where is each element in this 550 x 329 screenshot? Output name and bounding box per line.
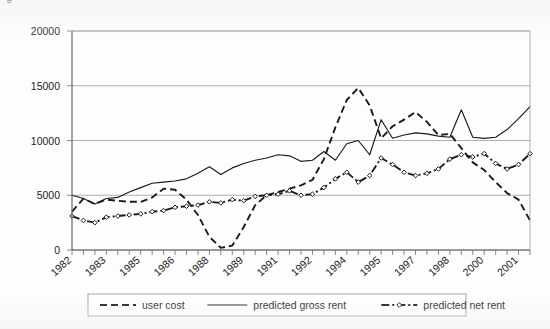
y-axis-tick-labels: 05000100001500020000 [31, 25, 72, 256]
x-axis-tick-label: 2000 [460, 253, 486, 278]
y-axis-tick-label: 15000 [31, 80, 60, 92]
data-point-marker [184, 204, 189, 209]
data-point-marker [230, 197, 235, 202]
x-axis-tick-label: 1998 [426, 253, 452, 278]
gridlines-group [72, 31, 530, 250]
data-point-marker [276, 192, 281, 197]
data-point-marker [138, 212, 143, 217]
y-axis-tick-label: 10000 [31, 135, 60, 147]
data-point-marker [93, 220, 98, 225]
data-point-marker [219, 201, 224, 206]
data-point-marker [127, 213, 132, 218]
line-chart: 05000100001500020000 1982198319851986198… [0, 0, 550, 329]
y-axis-tick-label: 0 [54, 244, 60, 256]
legend-label: predicted net rent [423, 299, 505, 311]
y-axis-tick-label: 20000 [31, 25, 60, 37]
x-axis-tick-label: 1994 [323, 253, 349, 278]
series-group [70, 88, 533, 248]
axes-group [72, 31, 530, 255]
legend-label: user cost [142, 299, 185, 311]
data-point-marker [150, 209, 155, 214]
x-axis-tick-label: 2001 [494, 253, 520, 278]
data-point-marker [299, 193, 304, 198]
chart-legend: user costpredicted gross rentpredicted n… [88, 294, 505, 316]
data-point-marker [470, 155, 475, 160]
data-point-marker [367, 173, 372, 178]
x-axis-tick-labels: 1982198319851986198819891991199219941995… [48, 253, 520, 278]
x-axis-tick-label: 1989 [220, 253, 246, 278]
x-axis-tick-label: 1992 [288, 253, 314, 278]
x-axis-tick-label: 1995 [357, 253, 383, 278]
x-axis-tick-label: 1982 [48, 253, 74, 278]
x-axis-tick-label: 1985 [117, 253, 143, 278]
x-axis-tick-label: 1991 [254, 253, 280, 278]
figure-container: g 05000100001500020000 19821983198519861… [0, 0, 550, 329]
data-point-marker [173, 205, 178, 210]
series-line-user-cost [72, 88, 530, 248]
data-point-marker [253, 194, 258, 199]
data-point-marker [516, 162, 521, 167]
legend-label: predicted gross rent [253, 299, 346, 311]
data-point-marker [402, 170, 407, 175]
y-axis-tick-label: 5000 [37, 189, 61, 201]
data-point-marker [207, 200, 212, 205]
data-point-marker [264, 193, 269, 198]
x-axis-tick-label: 1983 [82, 253, 108, 278]
x-axis-tick-label: 1986 [151, 253, 177, 278]
data-point-marker [116, 214, 121, 219]
data-point-marker [81, 218, 86, 223]
x-axis-tick-label: 1997 [391, 253, 417, 278]
x-axis-tick-label: 1988 [185, 253, 211, 278]
data-point-marker [459, 152, 464, 157]
data-point-marker [310, 192, 315, 197]
data-point-marker [196, 203, 201, 208]
data-point-marker [413, 173, 418, 178]
data-point-marker [161, 208, 166, 213]
